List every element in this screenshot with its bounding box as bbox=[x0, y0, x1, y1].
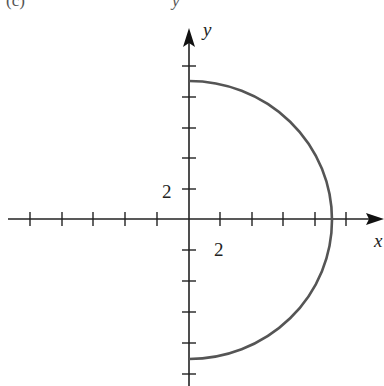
y-tick-label-2: 2 bbox=[162, 182, 172, 201]
x-tick-label-2: 2 bbox=[214, 240, 224, 259]
semicircle-curve bbox=[189, 81, 332, 359]
coordinate-plane bbox=[0, 0, 384, 386]
diagram: (c) y bbox=[0, 0, 384, 386]
y-axis-label: y bbox=[203, 20, 211, 39]
x-axis-label: x bbox=[374, 231, 382, 250]
